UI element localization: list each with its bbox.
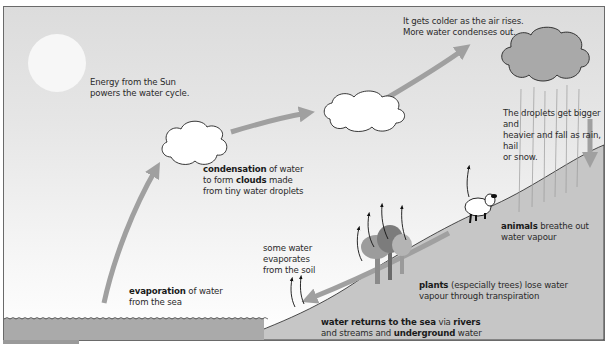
condensation-text: to form [203,175,236,185]
soil-evaporation-arrows [291,277,304,307]
plants-text: vapour through transpiration [419,291,568,302]
rivers-term: rivers [453,317,480,327]
animals-text: breathe out [538,221,589,231]
animals-term: animals [501,221,538,231]
soil-label: some water evaporates from the soil [263,243,315,276]
cloud-to-cloud-arrow [231,113,307,132]
returns-text: and streams and [321,328,394,338]
soil-label-line: evaporates [263,254,315,265]
returns-term: water returns to the sea [321,317,436,327]
sun-label-line: powers the water cycle. [90,88,189,99]
animals-text: water vapour [501,232,589,243]
soil-label-line: from the soil [263,265,315,276]
rising-air-arrow [387,49,464,98]
evaporation-arrow [104,169,156,303]
sun-icon [28,34,86,92]
soil-label-line: some water [263,243,315,254]
plants-term: plants [419,280,448,290]
droplets-label-line: heavier and fall as rain, hail [503,130,604,152]
evaporation-label: evaporation of water from the sea [129,286,223,308]
colder-label: It gets colder as the air rises. More wa… [403,16,524,38]
condensation-label: condensation of water to form clouds mad… [203,164,303,197]
small-cloud-icon [162,121,227,164]
droplets-label: The droplets get bigger and heavier and … [503,108,604,163]
sun-label: Energy from the Sun powers the water cyc… [90,77,189,99]
colder-label-line: It gets colder as the air rises. [403,16,524,27]
droplets-label-line: The droplets get bigger and [503,108,604,130]
condensation-text: made [266,175,292,185]
returns-label: water returns to the sea via rivers and … [321,317,482,339]
evaporation-text: of water [186,286,223,296]
water-cycle-diagram: Energy from the Sun powers the water cyc… [3,6,605,341]
underground-term: underground [394,328,456,338]
plants-label: plants (especially trees) lose water vap… [419,280,568,302]
evaporation-term: evaporation [129,286,186,296]
medium-cloud-icon [324,91,404,132]
droplets-label-line: or snow. [503,152,604,163]
condensation-term: condensation [203,164,266,174]
colder-label-line: More water condenses out. [403,27,524,38]
sun-label-line: Energy from the Sun [90,77,189,88]
animals-label: animals breathe out water vapour [501,221,589,243]
bottom-tab-bar [3,340,79,344]
condensation-text: of water [266,164,303,174]
returns-text: via [436,317,453,327]
evaporation-text: from the sea [129,297,223,308]
plants-text: (especially trees) lose water [448,280,568,290]
sea [4,318,268,341]
returns-text: water [455,328,481,338]
condensation-text: from tiny water droplets [203,186,303,197]
clouds-term: clouds [236,175,266,185]
